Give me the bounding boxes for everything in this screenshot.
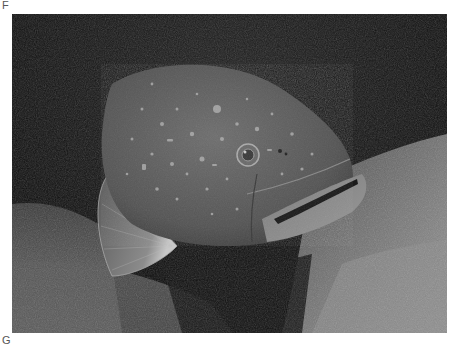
panel-label-f: F	[2, 0, 9, 11]
grouper-photo	[12, 14, 447, 333]
grouper-illustration	[12, 14, 447, 333]
panel-label-g: G	[2, 335, 11, 346]
